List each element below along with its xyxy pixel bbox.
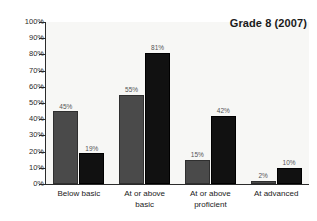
- bar-value-label: 45%: [53, 103, 78, 110]
- x-axis-category-line: At or above: [178, 189, 244, 200]
- y-axis-tick-label: 100%: [25, 18, 44, 26]
- x-axis-category-line: At or above: [112, 189, 178, 200]
- x-axis-line: [45, 184, 309, 185]
- y-axis-tick-label: 40%: [29, 115, 44, 123]
- y-axis-tick-label: 10%: [29, 164, 44, 172]
- y-axis-line: [45, 22, 46, 185]
- bar-value-label: 19%: [79, 145, 104, 152]
- y-axis-tick-label: 30%: [29, 131, 44, 139]
- bar: [185, 160, 210, 184]
- bar-value-label: 55%: [119, 86, 144, 93]
- x-axis-category-line: At advanced: [243, 189, 309, 200]
- bar-value-label: 10%: [277, 159, 302, 166]
- bar: [79, 153, 104, 184]
- x-axis-category-label: At advanced: [243, 189, 309, 200]
- y-axis-tick-label: 70%: [29, 67, 44, 75]
- y-axis-tick-label: 0%: [33, 180, 44, 188]
- bar-chart: 0%10%20%30%40%50%60%70%80%90%100% 45%19%…: [0, 0, 317, 221]
- y-axis-tick-label: 60%: [29, 83, 44, 91]
- bar-value-label: 2%: [251, 172, 276, 179]
- x-axis-category-line: Below basic: [46, 189, 112, 200]
- bar: [119, 95, 144, 184]
- bar: [251, 181, 276, 184]
- bar: [53, 111, 78, 184]
- bar-value-label: 15%: [185, 151, 210, 158]
- bar: [211, 116, 236, 184]
- x-axis-category-line: proficient: [178, 200, 244, 211]
- y-axis-tick-label: 20%: [29, 148, 44, 156]
- x-axis-category-label: Below basic: [46, 189, 112, 200]
- x-axis-category-label: At or abovebasic: [112, 189, 178, 210]
- bar: [277, 168, 302, 184]
- x-axis-category-line: basic: [112, 200, 178, 211]
- bar-value-label: 42%: [211, 107, 236, 114]
- bar: [145, 53, 170, 184]
- x-axis-category-label: At or aboveproficient: [178, 189, 244, 210]
- bar-value-label: 81%: [145, 44, 170, 51]
- y-axis-tick-label: 90%: [29, 34, 44, 42]
- y-axis-tick-label: 80%: [29, 50, 44, 58]
- chart-title: Grade 8 (2007): [230, 17, 307, 29]
- y-axis-tick-label: 50%: [29, 99, 44, 107]
